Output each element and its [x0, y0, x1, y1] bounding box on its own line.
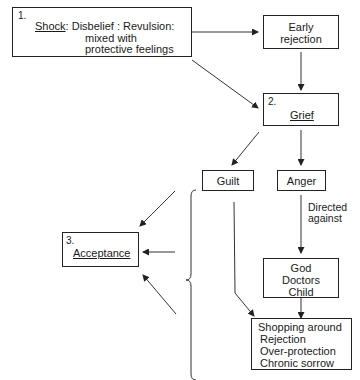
early-rejection-node: Early rejection	[263, 15, 339, 49]
anger-label: Anger	[287, 175, 316, 187]
grief-node: 2. Grief	[263, 93, 339, 126]
node-number: 3.	[66, 235, 74, 247]
outcomes-line3: Over-protection	[258, 345, 351, 357]
arrow-grief-to-guilt	[232, 132, 259, 165]
early-rejection-line2: rejection	[264, 33, 338, 45]
shock-node: 1. Shock: Disbelief : Revulsion: mixed w…	[12, 7, 192, 57]
shock-desc-line1: : Disbelief : Revulsion:	[66, 20, 175, 32]
node-number: 1.	[18, 10, 26, 22]
outcomes-line1: Shopping around	[258, 321, 351, 333]
early-rejection-line1: Early	[264, 21, 338, 33]
arrow-shock-to-grief	[192, 60, 258, 108]
directed-against-label: Directed against	[308, 202, 347, 224]
acceptance-node: 3. Acceptance	[62, 232, 139, 267]
shock-title: Shock	[35, 20, 66, 32]
guilt-node: Guilt	[202, 170, 254, 191]
arrow-to-acceptance-bottom	[143, 275, 176, 314]
grief-title: Grief	[290, 109, 314, 121]
outcomes-line4: Chronic sorrow	[258, 357, 351, 369]
outcomes-node: Shopping around Rejection Over-protectio…	[251, 318, 352, 370]
targets-line1: God	[264, 262, 338, 274]
brace	[186, 190, 196, 380]
targets-line2: Doctors	[264, 274, 338, 286]
anger-node: Anger	[277, 170, 326, 191]
acceptance-title: Acceptance	[73, 247, 130, 259]
guilt-label: Guilt	[217, 175, 240, 187]
arrow-guilt-to-outcomes	[234, 202, 254, 316]
arrow-to-acceptance-top	[140, 191, 175, 226]
targets-line3: Child	[264, 286, 338, 298]
shock-desc-line3: protective feelings	[85, 43, 174, 55]
node-number: 2.	[268, 96, 276, 108]
directed-against-line2: against	[308, 213, 347, 224]
outcomes-line2: Rejection	[258, 333, 351, 345]
targets-node: God Doctors Child	[263, 258, 339, 298]
